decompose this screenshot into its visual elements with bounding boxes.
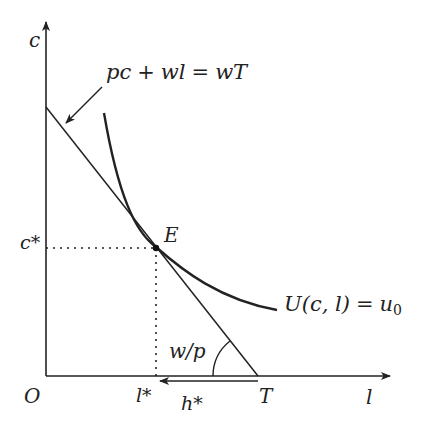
y-axis-label: c <box>29 28 40 52</box>
origin-label: O <box>24 384 40 408</box>
budget-line-label: pc+wl=wT <box>106 60 249 84</box>
equilibrium-point <box>153 245 159 251</box>
indifference-curve-label: U(c, l)=u0 <box>284 292 402 318</box>
budget-line-pointer-arrow <box>66 87 102 123</box>
endowment-label: T <box>259 384 274 408</box>
c-star-label: c* <box>20 231 41 253</box>
x-axis-label: l <box>366 385 372 409</box>
budget-line <box>46 107 258 376</box>
equilibrium-label: E <box>163 223 179 247</box>
l-star-label: l* <box>136 384 152 406</box>
slope-angle-arc <box>213 341 230 376</box>
diagram-canvas: c l O pc+wl=wT E c* l* h* T w/p U(c, l)=… <box>0 0 428 432</box>
labor-leisure-diagram: c l O pc+wl=wT E c* l* h* T w/p U(c, l)=… <box>0 0 428 432</box>
indifference-curve <box>104 113 277 310</box>
slope-angle-label: w/p <box>169 339 206 363</box>
h-star-label: h* <box>181 392 203 414</box>
